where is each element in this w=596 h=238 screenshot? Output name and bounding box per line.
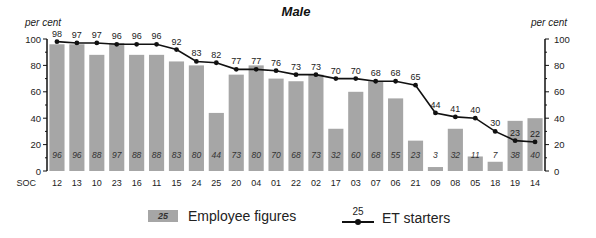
bar <box>527 118 542 171</box>
line-value-label: 97 <box>72 30 82 40</box>
y-tick-label-right: 20 <box>554 139 565 150</box>
line-point <box>413 83 418 88</box>
y-tick-label-right: 80 <box>554 60 565 71</box>
y-tick-label-left: 0 <box>36 166 41 177</box>
x-tick-label: 25 <box>211 178 221 188</box>
y-axis-label-right: per cent <box>530 17 568 28</box>
x-tick-label: 15 <box>171 178 181 188</box>
y-tick-label-left: 100 <box>25 34 41 45</box>
line-value-label: 77 <box>251 56 261 66</box>
line-marker-icon: 25 <box>342 208 374 228</box>
bar-value-label: 73 <box>311 150 321 160</box>
y-tick-label-right: 0 <box>554 166 559 177</box>
y-tick-label-right: 60 <box>554 86 565 97</box>
legend-item-employee-figures: 25 Employee figures <box>148 208 296 224</box>
line-point <box>473 116 478 121</box>
x-tick-label: 02 <box>311 178 321 188</box>
line-point <box>513 138 518 143</box>
bar <box>488 162 503 171</box>
line-value-label: 73 <box>311 62 321 72</box>
x-tick-label: 04 <box>251 178 261 188</box>
line-value-label: 76 <box>271 58 281 68</box>
line-value-label: 97 <box>92 30 102 40</box>
line-value-label: 70 <box>331 66 341 76</box>
line-value-label: 96 <box>132 31 142 41</box>
line-value-label: 70 <box>351 66 361 76</box>
line-point <box>254 67 259 72</box>
x-tick-label: 18 <box>490 178 500 188</box>
line-value-label: 23 <box>510 128 520 138</box>
x-tick-label: 14 <box>530 178 540 188</box>
line-point <box>333 76 338 81</box>
x-tick-label: 07 <box>371 178 381 188</box>
line-point <box>214 60 219 65</box>
legend-item-et-starters: 25 ET starters <box>342 208 450 228</box>
x-tick-label: 10 <box>92 178 102 188</box>
bar-value-label: 68 <box>371 150 381 160</box>
line-point <box>353 76 358 81</box>
line-value-label: 22 <box>530 129 540 139</box>
line-value-label: 65 <box>411 72 421 82</box>
x-axis-label: SOC <box>16 178 36 188</box>
bar-value-label: 96 <box>72 150 82 160</box>
bar-value-label: 70 <box>271 150 281 160</box>
line-value-label: 30 <box>490 118 500 128</box>
y-tick-label-left: 20 <box>30 139 41 150</box>
x-tick-label: 24 <box>191 178 201 188</box>
x-tick-label: 06 <box>391 178 401 188</box>
chart-area: Maleper centper cent96129613881097238816… <box>0 0 596 206</box>
bar-value-label: 11 <box>471 150 480 160</box>
chart-title: Male <box>282 4 311 19</box>
bar-value-label: 80 <box>251 150 261 160</box>
line-value-label: 68 <box>371 68 381 78</box>
x-tick-label: 16 <box>132 178 142 188</box>
bar <box>428 167 443 171</box>
legend-label-employee-figures: Employee figures <box>188 208 296 224</box>
x-tick-label: 05 <box>470 178 480 188</box>
bar-value-label: 68 <box>291 150 301 160</box>
line-point <box>453 114 458 119</box>
bar-value-label: 38 <box>510 150 520 160</box>
bar-value-label: 88 <box>152 150 162 160</box>
line-value-label: 96 <box>112 31 122 41</box>
line-point <box>314 72 319 77</box>
line-value-label: 77 <box>231 56 241 66</box>
x-tick-label: 23 <box>112 178 122 188</box>
line-point <box>134 42 139 47</box>
x-tick-label: 09 <box>430 178 440 188</box>
legend-label-et-starters: ET starters <box>382 210 450 226</box>
bar-value-label: 96 <box>52 150 62 160</box>
line-value-label: 82 <box>211 50 221 60</box>
bar-value-label: 60 <box>351 150 361 160</box>
bar-value-label: 73 <box>232 150 242 160</box>
bar-value-label: 83 <box>172 150 182 160</box>
bar <box>388 98 403 171</box>
line-point <box>493 129 498 134</box>
line-point <box>55 39 60 44</box>
line-value-label: 41 <box>450 104 460 114</box>
line-point <box>234 67 239 72</box>
bar-value-label: 88 <box>132 150 142 160</box>
legend: 25 Employee figures 25 ET starters <box>0 206 596 230</box>
x-tick-label: 03 <box>351 178 361 188</box>
bar-value-label: 97 <box>112 150 122 160</box>
line-value-label: 83 <box>191 48 201 58</box>
x-tick-label: 17 <box>331 178 341 188</box>
x-tick-label: 20 <box>231 178 241 188</box>
line-point <box>373 79 378 84</box>
line-point <box>154 42 159 47</box>
y-tick-label-left: 60 <box>30 86 41 97</box>
line-point <box>433 111 438 116</box>
y-tick-label-left: 40 <box>30 113 41 124</box>
line-point <box>533 140 538 145</box>
bar <box>209 113 224 171</box>
bar-value-label: 3 <box>433 150 438 160</box>
x-tick-label: 21 <box>411 178 421 188</box>
bar-value-label: 55 <box>391 150 401 160</box>
x-tick-label: 19 <box>510 178 520 188</box>
line-value-label: 96 <box>152 31 162 41</box>
x-tick-label: 11 <box>152 178 161 188</box>
y-tick-label-right: 40 <box>554 113 565 124</box>
line-point <box>114 42 119 47</box>
bar-swatch-icon: 25 <box>148 210 178 222</box>
